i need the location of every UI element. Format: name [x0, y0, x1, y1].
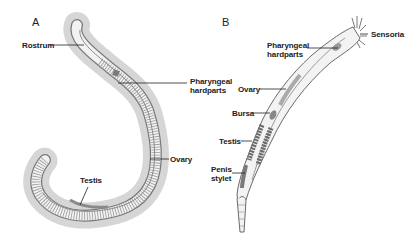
label-a-rostrum: Rostrum — [22, 41, 54, 50]
label-b-ovary: Ovary — [238, 85, 260, 94]
label-b-pharyngeal-line2: hardparts — [267, 50, 309, 59]
label-b-pharyngeal-line1: Pharyngeal — [267, 41, 309, 50]
label-b-bursa: Bursa — [232, 109, 254, 118]
label-b-sensoria: Sensoria — [371, 30, 404, 39]
label-a-testis: Testis — [80, 176, 102, 185]
label-a-pharyngeal-line2: hardparts — [190, 86, 232, 95]
label-b-penis-line2: stylet — [211, 174, 232, 183]
label-a-pharyngeal-hardparts: Pharyngeal hardparts — [190, 77, 232, 95]
label-a-pharyngeal-line1: Pharyngeal — [190, 77, 232, 86]
panel-label-b: B — [222, 16, 229, 28]
label-a-ovary: Ovary — [170, 155, 192, 164]
label-b-pharyngeal-hardparts: Pharyngeal hardparts — [267, 41, 309, 59]
worm-a — [36, 25, 156, 216]
label-b-penis-line1: Penis — [211, 165, 232, 174]
panel-label-a: A — [32, 16, 39, 28]
label-b-penis-stylet: Penis stylet — [211, 165, 232, 183]
figure-illustration — [0, 0, 418, 238]
label-b-testis: Testis — [219, 137, 241, 146]
